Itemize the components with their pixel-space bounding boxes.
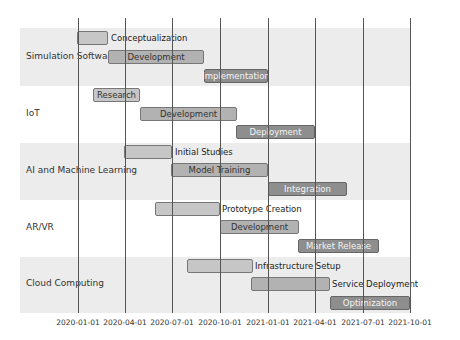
bar-label: Development — [231, 222, 288, 232]
gantt-bar[interactable] — [77, 31, 108, 45]
bar-label: Initial Studies — [175, 147, 233, 157]
bar-label: Prototype Creation — [222, 204, 302, 214]
gridline — [125, 18, 126, 313]
bar-label: Research — [97, 90, 136, 100]
bar-label: Deployment — [250, 127, 302, 137]
gridline — [268, 18, 269, 313]
x-tick-label: 2021-10-01 — [388, 318, 432, 327]
x-tick-label: 2021-07-01 — [341, 318, 385, 327]
gridline — [315, 18, 316, 313]
bar-label: Development — [127, 52, 184, 62]
gantt-bar[interactable]: Market Release — [298, 239, 379, 253]
bar-label: Integration — [284, 184, 331, 194]
category-label: Cloud Computing — [26, 278, 104, 288]
x-tick-label: 2020-01-01 — [56, 318, 100, 327]
bar-label: Implementation — [202, 71, 270, 81]
x-tick-label: 2021-04-01 — [293, 318, 337, 327]
gantt-bar[interactable]: Development — [140, 107, 237, 121]
gantt-chart: Simulation Software IoT AI and Machine L… — [0, 0, 460, 340]
gantt-bar[interactable] — [155, 202, 220, 216]
x-tick-label: 2020-04-01 — [103, 318, 147, 327]
gantt-bar[interactable]: Development — [108, 50, 204, 64]
x-tick-label: 2021-01-01 — [246, 318, 290, 327]
gantt-bar[interactable]: Research — [93, 88, 140, 102]
gridline — [172, 18, 173, 313]
category-label: AI and Machine Learning — [26, 165, 137, 175]
gridline — [78, 18, 79, 313]
x-tick-label: 2020-07-01 — [150, 318, 194, 327]
gantt-bar[interactable] — [124, 145, 172, 159]
bar-label: Optimization — [343, 298, 397, 308]
gantt-bar[interactable]: Integration — [268, 182, 347, 196]
gridline — [410, 18, 411, 313]
gridline — [220, 18, 221, 313]
bar-label: Development — [160, 109, 217, 119]
gantt-bar[interactable]: Development — [220, 220, 299, 234]
category-label: IoT — [26, 108, 40, 118]
gantt-bar[interactable]: Deployment — [236, 125, 315, 139]
gantt-bar[interactable]: Implementation — [204, 69, 268, 83]
category-label: AR/VR — [26, 222, 54, 232]
bar-label: Conceptualization — [111, 33, 187, 43]
x-tick-label: 2020-10-01 — [198, 318, 242, 327]
gantt-bar[interactable]: Optimization — [330, 296, 410, 310]
category-label: Simulation Software — [26, 51, 116, 61]
bar-label: Service Deployment — [332, 279, 418, 289]
gridline — [363, 18, 364, 313]
gantt-bar[interactable] — [251, 277, 330, 291]
